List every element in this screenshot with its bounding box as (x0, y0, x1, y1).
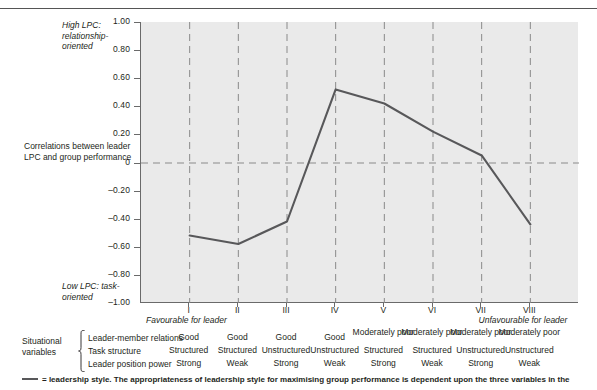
x-axis-label-favourable: Favourable for leader (146, 315, 227, 325)
y-tick-label: 0.40 (84, 101, 130, 110)
x-tick-mark (432, 303, 433, 307)
situational-variables-table: Situational variables Leader-member rela… (0, 330, 597, 372)
y-tick-label: –0.40 (84, 214, 130, 223)
data-line-leadership-style (190, 89, 531, 244)
x-tick-mark (286, 303, 287, 307)
x-tick-mark (237, 303, 238, 307)
plot-area (140, 22, 578, 303)
y-tick-label: –0.20 (84, 186, 130, 195)
y-tick-label: –0.60 (84, 242, 130, 251)
y-tick-label: 0.60 (84, 73, 130, 82)
x-tick-mark (529, 303, 530, 307)
y-tick-label: –1.00 (84, 298, 130, 307)
x-tick-mark (480, 303, 481, 307)
y-tick-label: 0.20 (84, 129, 130, 138)
brace-icon (78, 330, 85, 372)
legend-line-icon (22, 378, 38, 380)
x-tick-mark (334, 303, 335, 307)
situational-cell: Moderately poor (498, 328, 560, 338)
x-axis-label-unfavourable: Unfavourable for leader (468, 315, 578, 325)
situational-row-label: Task structure (88, 346, 141, 356)
y-tick-label: 0 (84, 158, 130, 167)
situational-cell: Unstructured (498, 346, 560, 356)
y-tick-label: –0.80 (84, 270, 130, 279)
y-tick-label: 1.00 (84, 17, 130, 26)
chart-footnote: = leadership style. The appropriateness … (22, 374, 582, 385)
situational-variables-title: Situational variables (22, 336, 78, 357)
x-tick-mark (188, 303, 189, 307)
footnote-text: = leadership style. The appropriateness … (42, 375, 569, 384)
plot-svg (141, 22, 579, 303)
x-tick-mark (383, 303, 384, 307)
situational-cell: Weak (498, 359, 560, 369)
y-tick-label: 0.80 (84, 45, 130, 54)
